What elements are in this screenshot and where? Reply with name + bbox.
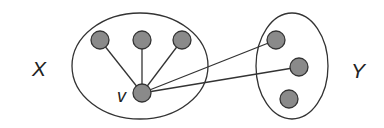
edges <box>100 40 299 93</box>
set-label-x: X <box>31 57 47 80</box>
vertex-x1 <box>91 31 109 49</box>
labels: X Y v <box>31 57 367 106</box>
graph-diagram: X Y v <box>0 0 384 128</box>
vertex-x3 <box>173 31 191 49</box>
set-ellipse-x <box>72 13 208 119</box>
vertex-x2 <box>133 31 151 49</box>
vertex-y3 <box>280 90 298 108</box>
vertex-y1 <box>267 31 285 49</box>
diagram-canvas: X Y v <box>0 0 384 128</box>
vertex-v <box>133 84 151 102</box>
vertex-y2 <box>290 58 308 76</box>
set-label-y: Y <box>351 59 367 82</box>
vertex-label-v: v <box>117 86 127 106</box>
edge-v-y2 <box>142 67 299 93</box>
